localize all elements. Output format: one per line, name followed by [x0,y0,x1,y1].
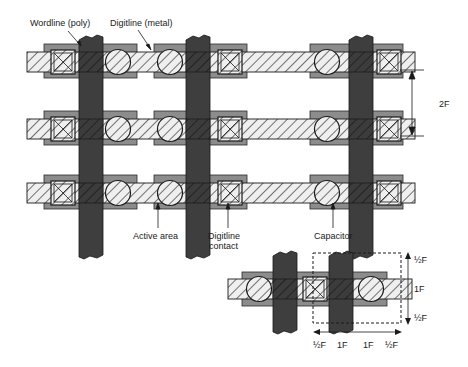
label-capacitor: Capacitor [314,231,353,241]
label-wordline: Wordline (poly) [30,18,90,28]
array-layout-drawing [0,0,468,367]
inset-dim-h-4: ½F [385,340,398,350]
inset-dim-v-top: ½F [414,255,427,265]
label-active-area: Active area [133,231,178,241]
inset-dim-h-1: ½F [313,340,326,350]
inset-dim-v-bot: ½F [414,313,427,323]
label-digitline: Digitline (metal) [110,18,173,28]
inset-dim-v-mid: 1F [414,284,425,294]
label-digitline-contact-line1: Digitline [208,231,240,241]
label-pitch-2f: 2F [439,99,450,109]
inset-dim-h-2: 1F [337,340,348,350]
label-digitline-contact-line2: contact [209,241,238,251]
inset-dim-h-3: 1F [363,340,374,350]
cell-inset [228,251,412,335]
